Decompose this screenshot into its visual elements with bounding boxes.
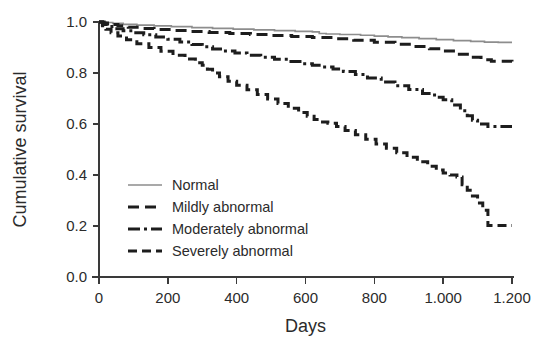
x-axis-ticks: 02004006008001.0001.200: [95, 277, 531, 306]
legend-label-mildly-abnormal: Mildly abnormal: [172, 199, 274, 215]
data-curves: [99, 22, 512, 225]
axes-group: [92, 21, 514, 277]
x-axis-title: Days: [285, 316, 326, 336]
chart-legend: NormalMildly abnormalModerately abnormal…: [128, 177, 308, 259]
x-tick-label: 200: [155, 289, 180, 306]
y-axis-ticks: 0.00.20.40.60.81.0: [66, 13, 99, 285]
chart-canvas: 0.00.20.40.60.81.0 02004006008001.0001.2…: [0, 0, 540, 341]
x-tick-label: 0: [95, 289, 103, 306]
x-tick-label: 800: [362, 289, 387, 306]
legend-label-severely-abnormal: Severely abnormal: [172, 243, 293, 259]
y-tick-label: 0.0: [66, 268, 87, 285]
x-tick-label: 1.000: [424, 289, 462, 306]
series-line-mildly-abnormal: [99, 22, 512, 62]
y-tick-label: 0.8: [66, 64, 87, 81]
y-tick-label: 0.4: [66, 166, 87, 183]
y-axis-title: Cumulative survival: [10, 71, 30, 227]
x-tick-label: 600: [293, 289, 318, 306]
legend-label-moderately-abnormal: Moderately abnormal: [172, 221, 308, 237]
x-tick-label: 400: [224, 289, 249, 306]
y-tick-label: 0.2: [66, 217, 87, 234]
x-tick-label: 1.200: [493, 289, 531, 306]
y-tick-label: 0.6: [66, 115, 87, 132]
y-tick-label: 1.0: [66, 13, 87, 30]
legend-label-normal: Normal: [172, 177, 219, 193]
series-line-normal: [99, 22, 512, 42]
survival-chart: 0.00.20.40.60.81.0 02004006008001.0001.2…: [0, 0, 540, 341]
